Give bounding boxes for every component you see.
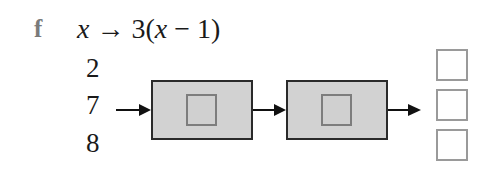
output-answer-box-2[interactable] [436,89,468,121]
function-machine-2 [286,80,388,140]
machine-2-answer-box[interactable] [321,94,352,126]
output-arrow-icon [387,104,421,116]
machine-1-answer-box[interactable] [186,94,217,126]
input-arrow-icon [116,104,151,116]
middle-arrow-icon [252,104,286,116]
output-answer-box-1[interactable] [436,49,468,81]
output-answer-box-3[interactable] [436,129,468,161]
function-machine-1 [151,80,253,140]
